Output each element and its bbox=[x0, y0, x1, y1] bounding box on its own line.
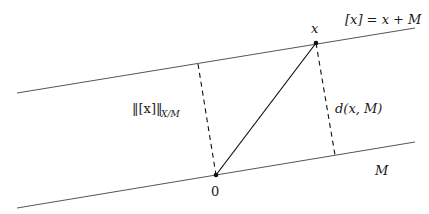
quotient-norm-label: ‖[x]‖ X/M bbox=[132, 101, 180, 119]
distance-segment bbox=[316, 43, 335, 155]
x-point-label: x bbox=[311, 21, 319, 36]
diagram-canvas: x 0 [x] = x + M M d(x, M) ‖[x]‖ X/M bbox=[0, 0, 429, 214]
origin-point-label: 0 bbox=[211, 184, 219, 199]
x-point bbox=[314, 41, 319, 46]
coset-line bbox=[17, 28, 415, 93]
origin-point bbox=[214, 173, 219, 178]
vector-segment bbox=[216, 43, 316, 175]
quotient-norm-subscript: X/M bbox=[160, 109, 180, 119]
subspace-line-label: M bbox=[374, 163, 389, 178]
quotient-norm-main: ‖[x]‖ bbox=[132, 101, 162, 116]
coset-line-label: [x] = x + M bbox=[345, 12, 422, 27]
quotient-norm-segment bbox=[198, 64, 216, 175]
distance-label: d(x, M) bbox=[335, 101, 382, 116]
